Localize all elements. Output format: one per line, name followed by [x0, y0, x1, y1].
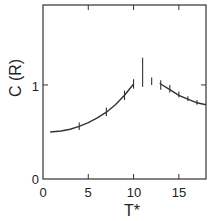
series-line-0: [50, 84, 133, 132]
y-tick-label-1: 1: [32, 79, 39, 94]
x-axis-label: T*: [124, 202, 140, 219]
chart: 0 1 0 5 10 15 T* C (R): [0, 0, 216, 221]
x-tick-label-10: 10: [127, 185, 141, 200]
x-tick-label-5: 5: [84, 185, 91, 200]
y-axis-label: C (R): [7, 59, 24, 97]
y-tick-label-0: 0: [32, 172, 39, 187]
series-line-1: [160, 83, 206, 105]
x-tick-label-15: 15: [172, 185, 186, 200]
x-tick-label-0: 0: [39, 185, 46, 200]
